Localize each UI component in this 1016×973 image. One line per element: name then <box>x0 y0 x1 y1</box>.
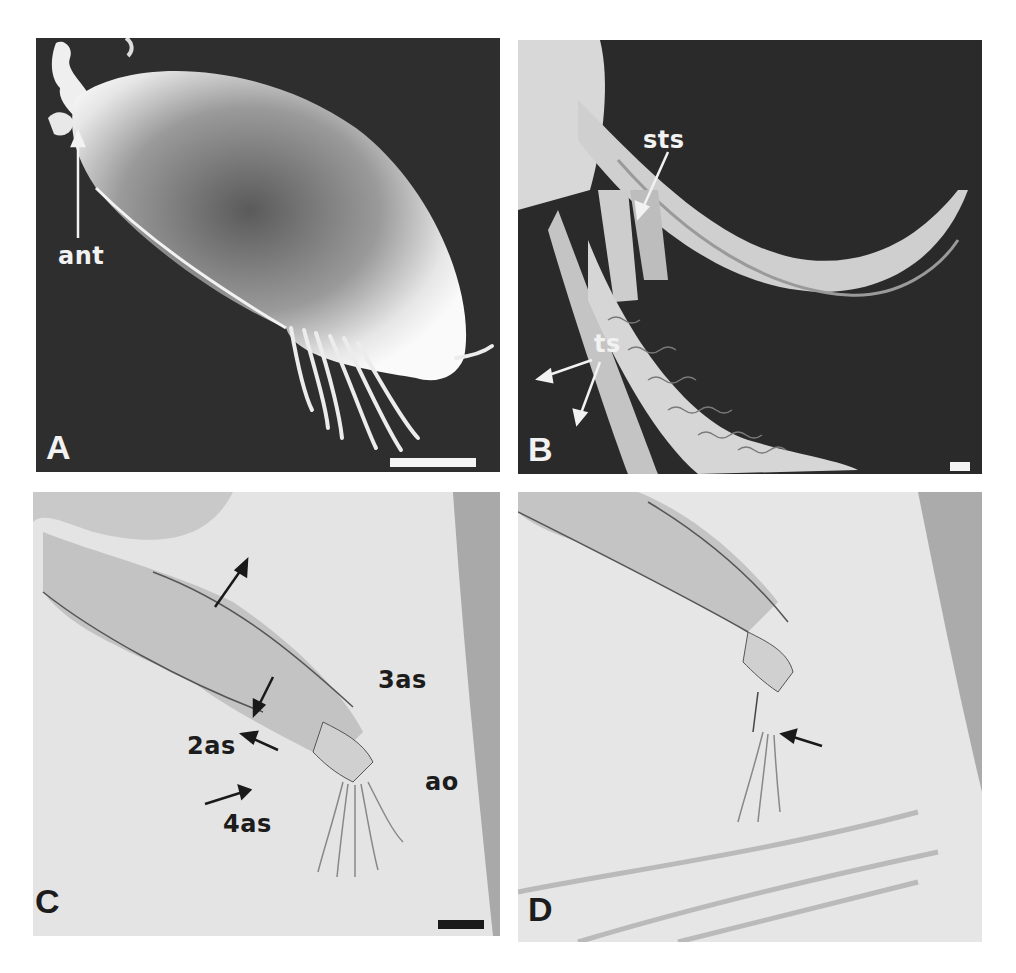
panel-c: 3as 2as ao 4as C <box>33 492 500 936</box>
annotation-2as: 2as <box>187 734 236 758</box>
annotation-ant: ant <box>58 244 104 268</box>
scale-bar-c <box>438 920 484 929</box>
panel-a-micrograph <box>36 38 500 472</box>
panel-d: D <box>518 492 982 942</box>
panel-d-micrograph <box>518 492 982 942</box>
panel-label-c: C <box>35 884 60 918</box>
annotation-sts: sts <box>643 128 685 152</box>
scale-bar-a <box>390 458 476 467</box>
annotation-3as: 3as <box>378 668 427 692</box>
annotation-4as: 4as <box>223 812 272 836</box>
annotation-ts: ts <box>594 332 621 356</box>
panel-b: sts ts B <box>518 40 982 474</box>
panel-b-micrograph <box>518 40 982 474</box>
annotation-ao: ao <box>425 770 459 794</box>
panel-label-b: B <box>528 432 553 466</box>
panel-a: ant A <box>36 38 500 472</box>
scale-bar-b <box>950 462 970 471</box>
panel-label-a: A <box>46 430 71 464</box>
panel-label-d: D <box>528 892 553 926</box>
panel-c-micrograph <box>33 492 500 936</box>
